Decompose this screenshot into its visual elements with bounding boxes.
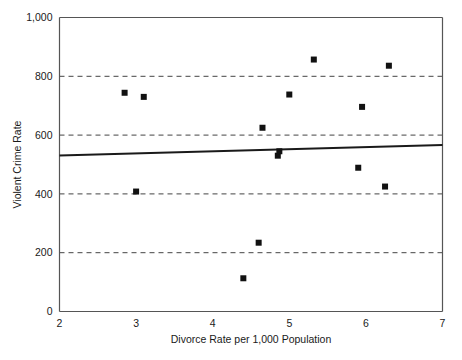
y-tick-label: 200 bbox=[35, 246, 53, 258]
x-tick-label: 7 bbox=[440, 317, 446, 329]
y-tick-label: 600 bbox=[35, 129, 53, 141]
chart-canvas: 02004006008001,000234567Divorce Rate per… bbox=[0, 0, 462, 360]
y-tick-label: 1,000 bbox=[26, 11, 52, 23]
data-point bbox=[359, 104, 365, 110]
y-axis-title: Violent Crime Rate bbox=[11, 120, 23, 208]
y-tick-label: 0 bbox=[47, 305, 53, 317]
x-axis-title: Divorce Rate per 1,000 Population bbox=[171, 333, 332, 345]
scatter-plot-figure: 02004006008001,000234567Divorce Rate per… bbox=[0, 0, 462, 360]
y-tick-label: 400 bbox=[35, 188, 53, 200]
data-point bbox=[256, 240, 262, 246]
data-point bbox=[286, 92, 292, 98]
x-tick-label: 6 bbox=[363, 317, 369, 329]
x-tick-label: 2 bbox=[57, 317, 63, 329]
data-point bbox=[133, 189, 139, 195]
data-point bbox=[382, 184, 388, 190]
data-point bbox=[386, 63, 392, 69]
data-point bbox=[122, 90, 128, 96]
data-point bbox=[276, 148, 282, 154]
x-tick-label: 5 bbox=[286, 317, 292, 329]
data-point bbox=[141, 94, 147, 100]
data-point bbox=[311, 57, 317, 63]
data-point bbox=[355, 165, 361, 171]
trendline bbox=[60, 145, 443, 155]
x-tick-label: 3 bbox=[133, 317, 139, 329]
data-point bbox=[259, 125, 265, 131]
data-point bbox=[240, 275, 246, 281]
y-tick-label: 800 bbox=[35, 70, 53, 82]
x-tick-label: 4 bbox=[210, 317, 216, 329]
